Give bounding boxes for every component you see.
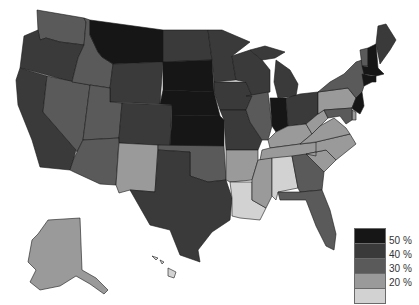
legend-label-40: 40 %	[389, 248, 412, 262]
state-KS	[170, 115, 224, 146]
state-WY	[110, 62, 163, 104]
state-AK	[28, 218, 108, 294]
legend-swatch-40-50	[355, 244, 385, 259]
legend-swatch-under20	[355, 289, 385, 303]
state-HI-3	[160, 260, 164, 264]
legend-swatch-30-40	[355, 259, 385, 274]
state-NM	[116, 143, 158, 193]
state-HI	[168, 268, 176, 278]
state-MI	[274, 60, 298, 98]
state-DE	[352, 110, 356, 120]
legend-swatch-20-30	[355, 274, 385, 289]
state-CO	[119, 103, 172, 146]
legend-swatch-50plus	[355, 229, 385, 244]
state-ND	[163, 30, 212, 62]
state-CT	[362, 74, 372, 86]
legend-label-20: 20 %	[389, 276, 412, 290]
state-RI	[372, 76, 376, 82]
state-ME	[376, 24, 396, 64]
legend-labels: 50 % 40 % 30 % 20 %	[389, 234, 412, 290]
state-HI-2	[152, 256, 158, 260]
legend-label-50: 50 %	[389, 234, 412, 248]
legend-label-30: 30 %	[389, 262, 412, 276]
legend	[354, 228, 386, 304]
state-FL	[278, 190, 336, 250]
state-SD	[163, 60, 214, 92]
state-IN	[270, 98, 288, 132]
